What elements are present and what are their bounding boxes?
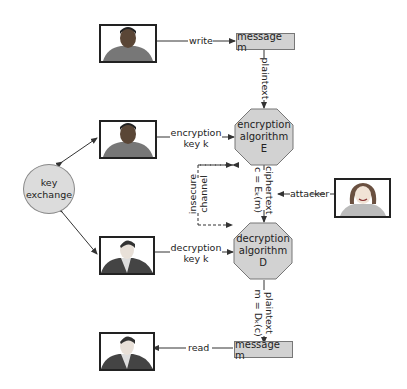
label-line: encryption [170,127,222,138]
label-line: algorithm [235,131,293,143]
write-label: write [189,35,213,46]
label-line: D [234,257,292,269]
label-line: key [26,177,72,189]
person-reader-photo [99,332,155,371]
label-line: encryption [235,119,293,131]
label-line: ciphertext [264,166,275,214]
encryption-key-label: encryption key k [170,127,222,149]
person-encryptor-photo [99,120,157,159]
insecure-channel-label: insecure channel [187,172,209,216]
label-line: decryption [170,242,222,253]
label-line: decryption [234,233,292,245]
person-icon [101,122,155,157]
message-box-bottom: message m [234,341,293,358]
label-line: insecure [187,172,198,216]
label-line: channel [198,172,209,216]
label-line: algorithm [234,245,292,257]
key-exchange-node: key exchange [23,164,75,214]
label-line: exchange [26,189,72,201]
read-label: read [188,342,209,353]
label-line: key k [170,138,222,149]
label-line: E [235,143,293,155]
person-attacker-photo [334,178,391,218]
label-line: m = Dₖ(c) [253,289,264,337]
person-writer-photo [99,24,157,63]
message-label: message m [237,31,294,53]
plaintext-top-label: plaintext [260,57,271,101]
encryption-algorithm-label: encryption algorithm E [235,119,293,155]
person-icon [101,334,153,369]
message-box-top: message m [236,33,295,50]
label-line: c = Eₖ(m) [253,166,264,214]
person-icon [336,180,389,216]
label-line: plaintext [264,289,275,337]
label-line: key k [170,253,222,264]
ciphertext-label: ciphertext c = Eₖ(m) [253,166,275,214]
person-icon [101,238,153,273]
plaintext-bottom-label: plaintext m = Dₖ(c) [253,289,275,337]
attacker-label: attacker [290,188,329,199]
message-label: message m [235,339,292,361]
decryption-algorithm-label: decryption algorithm D [234,233,292,269]
person-icon [101,26,155,61]
person-decryptor-photo [99,236,155,275]
decryption-key-label: decryption key k [170,242,222,264]
